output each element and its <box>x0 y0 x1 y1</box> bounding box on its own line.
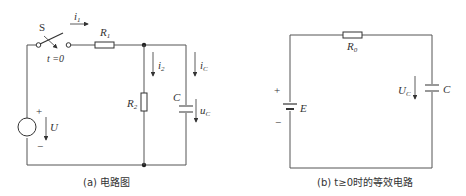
circuit-a: S t =0 i1 R1 i2 iC R2 C uC + − U (a) 电路图 <box>18 10 211 188</box>
caption-b: (b) t≥0时的等效电路 <box>317 176 413 188</box>
c-label: C <box>173 91 181 103</box>
switch-action-arrow-icon <box>44 36 57 48</box>
battery-plus: + <box>274 84 280 96</box>
r1-label: R1 <box>99 26 110 40</box>
uc-label: uC <box>200 104 211 118</box>
r2-label: R2 <box>126 97 138 111</box>
resistor-r1 <box>95 42 114 48</box>
i1-label: i1 <box>74 10 81 24</box>
r0-label: R0 <box>346 40 358 54</box>
battery-minus: − <box>275 116 281 128</box>
ic-label: iC <box>200 59 208 73</box>
resistor-r0 <box>343 32 362 38</box>
wire-b-loop <box>290 35 432 168</box>
voltage-source-u <box>18 118 36 136</box>
circuit-figure: S t =0 i1 R1 i2 iC R2 C uC + − U (a) 电路图… <box>0 0 466 196</box>
switch-label: S <box>39 21 45 33</box>
i2-label: i2 <box>158 59 165 73</box>
caption-a: (a) 电路图 <box>83 176 130 188</box>
resistor-r2 <box>141 93 147 111</box>
source-minus: − <box>37 140 43 152</box>
source-label: U <box>50 121 59 133</box>
uc-b-label: UC <box>398 84 411 98</box>
source-plus: + <box>36 105 42 117</box>
c-b-label: C <box>443 83 451 95</box>
switch-time-label: t =0 <box>47 53 64 64</box>
switch-contact-right <box>66 43 71 48</box>
circuit-b: R0 + − E UC C (b) t≥0时的等效电路 <box>274 32 451 188</box>
switch-blade[interactable] <box>40 33 63 44</box>
battery-label: E <box>299 102 307 114</box>
